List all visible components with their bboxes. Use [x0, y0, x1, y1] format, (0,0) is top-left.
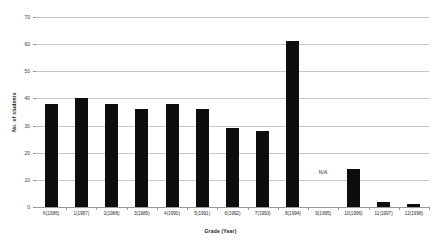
x-axis-tick-label: K(1986): [43, 211, 59, 217]
bar[interactable]: [407, 204, 420, 207]
bar-slot[interactable]: [217, 17, 247, 207]
y-axis-tick-label: 0: [27, 205, 30, 210]
x-axis-tick-label: 11(1997): [375, 211, 393, 217]
x-axis-tick-label: 7(1993): [255, 211, 271, 217]
x-axis-tick-label: 8(1994): [285, 211, 301, 217]
plot-area: 010203040506070 N/A: [36, 17, 429, 207]
x-axis-tick-mark: [248, 207, 249, 210]
y-axis-tick-label: 10: [24, 177, 30, 182]
bar-slot[interactable]: [36, 17, 66, 207]
na-annotation: N/A: [319, 169, 328, 174]
bar[interactable]: [347, 169, 360, 207]
y-axis-tick-label: 70: [24, 15, 30, 20]
y-axis-tick-label: 30: [24, 123, 30, 128]
x-axis-tick-label: 4(1990): [164, 211, 180, 217]
bar-slot[interactable]: [278, 17, 308, 207]
bar-slot[interactable]: [157, 17, 187, 207]
y-axis-tick-label: 50: [24, 69, 30, 74]
y-axis-tick-label: 60: [24, 42, 30, 47]
y-axis-tick-label: 20: [24, 150, 30, 155]
x-axis-tick-label: 6(1992): [225, 211, 241, 217]
bar[interactable]: [377, 202, 390, 207]
bar[interactable]: [75, 98, 88, 207]
bar-slot[interactable]: [248, 17, 278, 207]
bar[interactable]: [45, 104, 58, 207]
bar-slot[interactable]: [338, 17, 368, 207]
bar[interactable]: [135, 109, 148, 207]
x-axis-tick-mark: [127, 207, 128, 210]
bar[interactable]: [286, 41, 299, 207]
x-axis-tick-mark: [96, 207, 97, 210]
bar[interactable]: [105, 104, 118, 207]
x-axis-title: Grade (Year): [0, 228, 441, 234]
bar-slot[interactable]: [369, 17, 399, 207]
y-axis-title: No. of students: [11, 92, 17, 131]
bar-slot[interactable]: [187, 17, 217, 207]
x-axis-tick-mark: [399, 207, 400, 210]
y-axis-tick-mark: [33, 207, 36, 208]
x-axis-tick-mark: [338, 207, 339, 210]
bar-slot[interactable]: [66, 17, 96, 207]
x-axis-tick-mark: [157, 207, 158, 210]
bar[interactable]: [166, 104, 179, 207]
bar-slot[interactable]: [96, 17, 126, 207]
x-axis-tick-label: 2(1988): [104, 211, 120, 217]
bar-series: [36, 17, 429, 207]
x-axis-tick-label: 10(1996): [344, 211, 362, 217]
x-axis-tick-mark: [278, 207, 279, 210]
y-axis-tick-label: 40: [24, 96, 30, 101]
bar-slot[interactable]: [308, 17, 338, 207]
x-axis-tick-mark: [308, 207, 309, 210]
bar-slot[interactable]: [399, 17, 429, 207]
x-axis-tick-label: 5(1991): [194, 211, 210, 217]
x-axis-tick-mark: [217, 207, 218, 210]
x-axis-tick-mark: [66, 207, 67, 210]
x-axis-tick-label: 12(1998): [405, 211, 423, 217]
bar[interactable]: [196, 109, 209, 207]
x-axis-tick-mark: [429, 207, 430, 210]
x-axis-tick-label: 1(1987): [73, 211, 89, 217]
x-axis-tick-mark: [187, 207, 188, 210]
bar[interactable]: [256, 131, 269, 207]
bar[interactable]: [226, 128, 239, 207]
x-axis-tick-label: 9(1995): [315, 211, 331, 217]
x-axis-tick-mark: [369, 207, 370, 210]
bar-slot[interactable]: [127, 17, 157, 207]
x-axis-tick-label: 3(1989): [134, 211, 150, 217]
bar-chart: No. of students 010203040506070 N/A K(19…: [0, 0, 441, 246]
